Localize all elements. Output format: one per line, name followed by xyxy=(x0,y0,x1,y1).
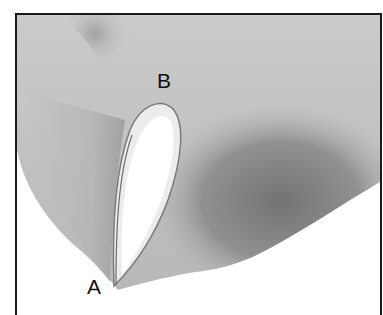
figure-frame xyxy=(15,13,382,315)
label-b: B xyxy=(157,70,171,91)
label-a: A xyxy=(87,276,101,297)
